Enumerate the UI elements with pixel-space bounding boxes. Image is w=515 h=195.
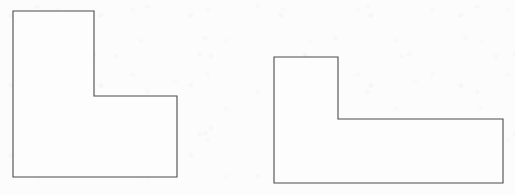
right-l-shape [274,57,503,183]
left-l-shape [13,11,177,177]
figure-canvas [0,0,515,195]
figure-container [0,0,515,195]
